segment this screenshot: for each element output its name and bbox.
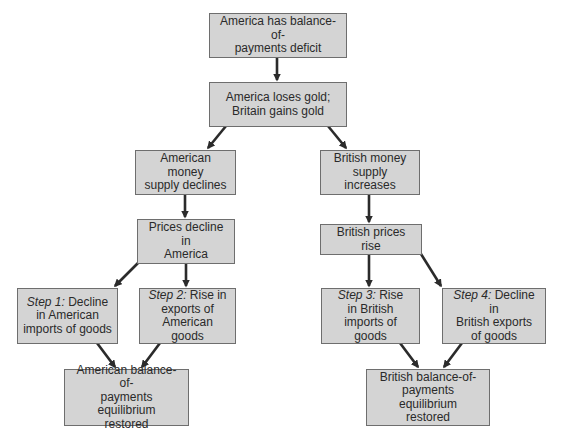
step-label: Step 4: [453,288,491,302]
node-line: imports of goods [344,315,397,343]
node-line: of goods [471,329,517,343]
node-line: in American [36,308,99,322]
arrow-n2-n3 [208,126,226,148]
arrow-n11-n12 [444,343,462,367]
node-line: supply increases [344,165,395,193]
node-line: American money [160,151,211,179]
flowchart-canvas: America has balance-of- payments deficit… [0,0,563,440]
node-line: Britain gains gold [232,104,324,118]
node-step3-uk-imports-rise: Step 3: Rise in British imports of goods [321,288,420,344]
node-line: British balance-of- [380,370,477,384]
step-label: Step 2: [148,288,186,302]
node-line: restored [406,410,450,424]
node-line: payments equilibrium [399,383,457,411]
node-line: Rise in [187,288,227,302]
arrow-n2-n4 [328,126,346,148]
node-line: American balance-of- [76,363,176,391]
node-line: British prices rise [326,226,416,253]
node-step1-us-imports-decline: Step 1: Decline in American imports of g… [17,288,118,344]
node-step4-uk-exports-decline: Step 4: Decline in British exports of go… [442,288,546,344]
node-gold-flow: America loses gold; Britain gains gold [209,82,347,127]
step-label: Step 3: [338,288,376,302]
node-line: America loses gold; [226,90,331,104]
arrow-n5-n7 [115,263,138,286]
node-line: Decline in [489,288,534,316]
node-line: imports of goods [23,322,112,336]
node-line: in British [347,302,393,316]
node-line: America [164,247,208,261]
node-us-prices-decline: Prices decline in America [137,219,235,264]
node-line: payments equilibrium [97,390,155,418]
node-line: payments deficit [235,41,322,55]
node-line: American goods [162,315,213,343]
node-uk-prices-rise: British prices rise [320,224,422,255]
arrow-n6-n11 [421,254,441,286]
node-line: British money [334,151,407,165]
node-uk-money-supply-increases: British money supply increases [320,150,420,195]
node-us-bop-deficit: America has balance-of- payments deficit [209,13,347,58]
arrow-n10-n12 [400,343,418,367]
node-us-bop-equilibrium-restored: American balance-of- payments equilibriu… [64,369,189,426]
node-uk-bop-equilibrium-restored: British balance-of- payments equilibrium… [366,369,490,426]
node-line: exports of [161,302,214,316]
node-line: Prices decline in [149,220,224,248]
node-line: Decline [65,295,108,309]
node-step2-us-exports-rise: Step 2: Rise in exports of American good… [139,288,236,344]
node-line: supply declines [144,178,226,192]
node-us-money-supply-declines: American money supply declines [135,150,236,195]
step-label: Step 1: [27,295,65,309]
node-line: restored [104,417,148,431]
node-line: Rise [376,288,403,302]
node-line: British exports [456,315,532,329]
node-line: America has balance-of- [220,14,336,42]
